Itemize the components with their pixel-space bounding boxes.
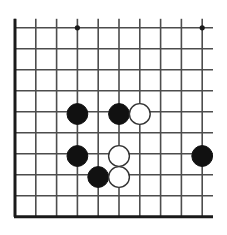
stone-white-2: [109, 146, 130, 167]
stone-black-5: [88, 167, 109, 188]
stone-black-4: [192, 146, 213, 167]
star-point-top-right: [200, 25, 205, 30]
stone-black-2: [109, 104, 130, 125]
stone-black-3: [67, 146, 88, 167]
stone-black-1: [67, 104, 88, 125]
stone-white-1: [129, 104, 150, 125]
go-board-diagram: [0, 0, 227, 235]
star-point-top-left: [75, 25, 80, 30]
stone-white-3: [109, 167, 130, 188]
go-board-canvas: [0, 0, 227, 235]
